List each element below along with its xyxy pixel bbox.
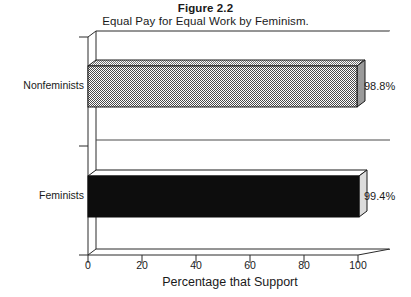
x-tick-label-60: 60 [235, 259, 265, 271]
category-label-nonfeminists: Nonfeminists [0, 79, 84, 91]
axis-depth-connector-top [88, 31, 96, 37]
x-tick-label-100: 100 [343, 259, 373, 271]
x-tick-label-0: 0 [73, 259, 103, 271]
value-label-nonfeminists: 98.8% [364, 80, 395, 92]
value-label-feminists: 99.4% [364, 190, 395, 202]
bar-nonfeminists-top-face [88, 60, 365, 66]
bar-feminists-top-face [88, 170, 367, 176]
category-label-feminists: Feminists [0, 189, 84, 201]
x-axis-title: Percentage that Support [70, 275, 390, 289]
axis-floor [88, 249, 390, 255]
bar-feminists-front-face [88, 176, 359, 217]
chart-plot-area [0, 0, 411, 297]
bar-feminists [88, 170, 367, 217]
bar-nonfeminists [88, 60, 365, 107]
x-tick-label-20: 20 [127, 259, 157, 271]
x-tick-label-80: 80 [289, 259, 319, 271]
x-tick-label-40: 40 [181, 259, 211, 271]
bar-nonfeminists-front-face [88, 66, 357, 107]
chart-figure: Figure 2.2 Equal Pay for Equal Work by F… [0, 0, 411, 297]
